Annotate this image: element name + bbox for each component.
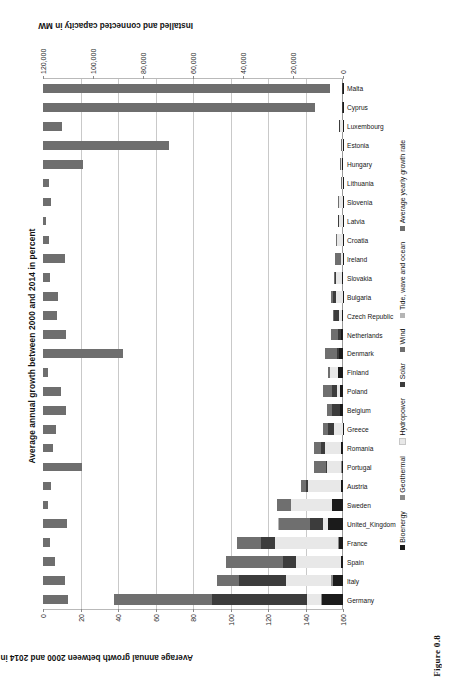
capacity-stacked-bar xyxy=(341,177,343,189)
growth-rate-bar xyxy=(43,254,65,263)
bar-column: Spain xyxy=(43,552,343,571)
x-axis-category-label: Romania xyxy=(347,444,373,451)
bar-column: Slovakia xyxy=(43,268,343,287)
growth-rate-bar xyxy=(43,424,56,433)
x-axis-category-label: Netherlands xyxy=(347,331,383,338)
x-axis-category-label: Czech Republic xyxy=(347,312,393,319)
legend-swatch-icon xyxy=(399,438,406,445)
legend-item: Wind xyxy=(399,328,406,351)
capacity-stacked-bar xyxy=(278,517,343,529)
bar-column: Finland xyxy=(43,362,343,381)
y-axis-left-tick: 80 xyxy=(190,614,197,622)
x-axis-category-label: Lithuania xyxy=(347,179,374,186)
bar-column: Romania xyxy=(43,438,343,457)
y-axis-right-tickmark xyxy=(343,76,344,79)
y-axis-right-tick: 0 xyxy=(340,70,347,74)
capacity-stacked-bar xyxy=(331,290,343,302)
bar-segment xyxy=(322,593,343,605)
growth-rate-bar xyxy=(43,443,53,452)
legend-swatch-icon xyxy=(400,312,405,317)
y-axis-left-tick: 40 xyxy=(115,614,122,622)
capacity-stacked-bar xyxy=(342,82,343,94)
bar-segment xyxy=(343,177,344,189)
growth-rate-bar xyxy=(43,235,49,244)
capacity-stacked-bar xyxy=(217,574,343,586)
x-axis-category-label: France xyxy=(347,539,368,546)
x-axis-category-label: Finland xyxy=(347,368,369,375)
x-axis-category-label: Poland xyxy=(347,387,368,394)
capacity-stacked-bar xyxy=(325,347,343,359)
bar-segment xyxy=(338,366,343,378)
bar-segment xyxy=(342,271,343,283)
legend-swatch-icon xyxy=(400,495,405,500)
bar-column: Portugal xyxy=(43,457,343,476)
x-axis-category-label: Slovakia xyxy=(347,274,372,281)
growth-rate-bar xyxy=(43,103,315,112)
x-axis-category-label: Denmark xyxy=(347,349,374,356)
bar-segment xyxy=(341,442,343,454)
x-axis-category-label: Slovenia xyxy=(347,198,372,205)
bar-segment xyxy=(332,404,340,416)
legend-swatch-icon xyxy=(400,381,405,386)
growth-rate-bar xyxy=(43,292,58,301)
bar-column: Estonia xyxy=(43,135,343,154)
legend-label: Bioenergy xyxy=(399,511,406,543)
bar-segment xyxy=(331,328,338,340)
legend-item: Bioenergy xyxy=(399,511,406,550)
bar-segment xyxy=(341,328,343,340)
growth-rate-bar xyxy=(43,122,62,131)
bar-column: Croatia xyxy=(43,230,343,249)
growth-rate-bar xyxy=(43,273,50,282)
chart-canvas: Average annual growth between 2000 and 2… xyxy=(27,26,427,666)
capacity-stacked-bar xyxy=(340,158,343,170)
y-axis-left-tick: 160 xyxy=(340,614,347,626)
bar-column: Malta xyxy=(43,79,343,98)
x-axis-category-label: Croatia xyxy=(347,236,368,243)
bar-segment xyxy=(217,574,239,586)
capacity-stacked-bar xyxy=(338,196,343,208)
legend-label: Solar xyxy=(399,363,406,379)
y-axis-left-tick: 20 xyxy=(77,614,84,622)
bar-column: Belgium xyxy=(43,400,343,419)
capacity-stacked-bar xyxy=(301,480,343,492)
bar-segment xyxy=(339,536,343,548)
growth-rate-bar xyxy=(43,519,67,528)
growth-rate-bar xyxy=(43,481,51,490)
chart-legend: BioenergyGeothermalHydropowerSolarWindTi… xyxy=(399,80,406,610)
legend-item: Hydropower xyxy=(399,397,406,444)
y-axis-right-tick: 60,000 xyxy=(190,52,197,73)
bar-segment xyxy=(343,234,344,246)
capacity-stacked-bar xyxy=(339,120,343,132)
y-axis-left-tick: 100 xyxy=(227,614,234,626)
y-axis-left-tick: 60 xyxy=(152,614,159,622)
legend-swatch-icon xyxy=(400,545,405,550)
y-axis-right-tick: 100,000 xyxy=(90,48,97,73)
bar-segment xyxy=(332,499,343,511)
bar-segment xyxy=(325,442,342,454)
y-axis-right-tick: 20,000 xyxy=(290,52,297,73)
bar-segment xyxy=(341,555,344,567)
bar-segment xyxy=(114,593,212,605)
bar-segment xyxy=(343,82,344,94)
capacity-stacked-bar xyxy=(338,215,343,227)
legend-swatch-icon xyxy=(400,347,405,352)
figure-caption: Figure 0.8 xyxy=(432,635,442,677)
growth-rate-bar xyxy=(43,197,51,206)
bar-segment xyxy=(343,290,344,302)
x-axis-category-label: Italy xyxy=(347,577,359,584)
capacity-stacked-bar xyxy=(335,252,343,264)
capacity-stacked-bar xyxy=(323,423,343,435)
x-axis-category-label: Malta xyxy=(347,84,363,91)
x-axis-category-label: Spain xyxy=(347,558,364,565)
growth-rate-bar xyxy=(43,405,66,414)
x-axis-category-label: Ireland xyxy=(347,255,367,262)
bar-segment xyxy=(261,536,275,548)
legend-item: Solar xyxy=(399,363,406,387)
x-axis-category-label: Luxembourg xyxy=(347,122,384,129)
bar-column: Poland xyxy=(43,381,343,400)
bar-segment xyxy=(342,158,344,170)
x-axis-category-label: Hungary xyxy=(347,160,372,167)
bar-segment xyxy=(283,555,297,567)
growth-rate-bar xyxy=(43,462,82,471)
bar-segment xyxy=(334,423,343,435)
